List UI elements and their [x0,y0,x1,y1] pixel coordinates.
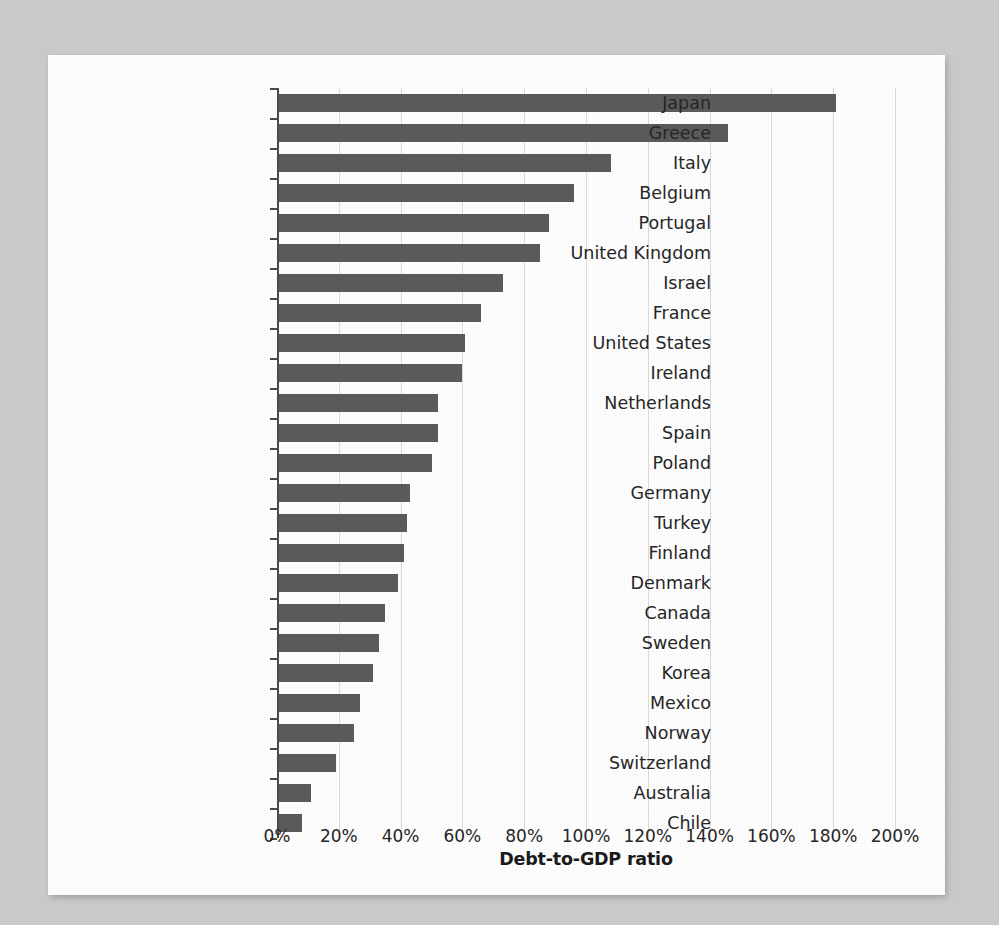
y-tick [270,808,277,810]
gridline [895,88,896,838]
category-label: Mexico [471,688,711,718]
bar [277,544,404,562]
category-label: United States [471,328,711,358]
category-label: Canada [471,598,711,628]
category-label: Israel [471,268,711,298]
y-tick [270,748,277,750]
bar [277,664,373,682]
bar [277,634,379,652]
y-tick [270,508,277,510]
y-tick [270,268,277,270]
bar [277,724,354,742]
bar [277,754,336,772]
bar [277,334,465,352]
y-tick [270,478,277,480]
y-tick [270,328,277,330]
category-label: Greece [471,118,711,148]
category-label: Germany [471,478,711,508]
x-tick-label: 0% [264,826,291,846]
category-label: Netherlands [471,388,711,418]
y-tick [270,238,277,240]
y-tick [270,718,277,720]
category-label: Japan [471,88,711,118]
category-label: Turkey [471,508,711,538]
y-axis-line [277,88,279,838]
category-label: Norway [471,718,711,748]
bar [277,604,385,622]
y-tick [270,298,277,300]
bar [277,784,311,802]
y-tick [270,658,277,660]
y-tick [270,118,277,120]
x-axis-title: Debt-to-GDP ratio [277,849,895,869]
y-tick [270,148,277,150]
y-tick [270,178,277,180]
x-tick-label: 160% [747,826,796,846]
bar [277,274,503,292]
category-label: Belgium [471,178,711,208]
debt-to-gdp-bar-chart: Debt-to-GDP ratio 0%20%40%60%80%100%120%… [0,0,999,925]
bar [277,484,410,502]
category-label: Denmark [471,568,711,598]
category-label: Sweden [471,628,711,658]
y-tick [270,598,277,600]
bar [277,424,438,442]
category-label: Ireland [471,358,711,388]
x-tick-label: 200% [871,826,920,846]
y-tick [270,448,277,450]
bar [277,514,407,532]
category-label: Korea [471,658,711,688]
y-tick [270,388,277,390]
category-label: Italy [471,148,711,178]
bar [277,454,432,472]
category-label: Chile [471,808,711,838]
y-tick [270,208,277,210]
x-tick-label: 20% [320,826,358,846]
bar [277,574,398,592]
category-label: Finland [471,538,711,568]
category-label: Australia [471,778,711,808]
category-label: United Kingdom [471,238,711,268]
bar [277,304,481,322]
bar [277,694,360,712]
y-tick [270,88,277,90]
y-tick [270,568,277,570]
category-label: Portugal [471,208,711,238]
x-tick-label: 40% [382,826,420,846]
y-tick [270,778,277,780]
bar [277,364,462,382]
category-label: France [471,298,711,328]
bar [277,394,438,412]
category-label: Spain [471,418,711,448]
category-label: Poland [471,448,711,478]
y-tick [270,358,277,360]
y-tick [270,538,277,540]
y-tick [270,688,277,690]
y-tick [270,628,277,630]
category-label: Switzerland [471,748,711,778]
y-tick [270,418,277,420]
x-tick-label: 180% [809,826,858,846]
